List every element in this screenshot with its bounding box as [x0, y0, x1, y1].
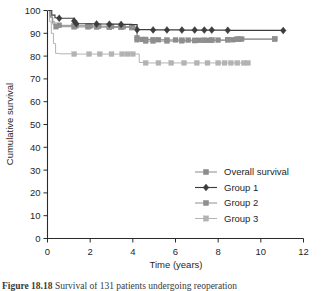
data-marker-diamond	[280, 27, 286, 34]
y-tick-label: 20	[30, 187, 41, 198]
x-tick-label: 12	[298, 246, 309, 257]
legend-label: Group 1	[224, 182, 258, 193]
figure-container: 0102030405060708090100 024681012 Time (y…	[0, 0, 330, 291]
data-marker-square	[156, 60, 161, 65]
y-tick-label: 0	[35, 233, 40, 244]
data-marker-square	[179, 38, 184, 43]
data-marker-diamond	[209, 27, 215, 34]
data-marker-square	[54, 24, 59, 29]
axis-spines	[48, 11, 304, 239]
data-marker-square	[72, 52, 77, 57]
data-marker-diamond	[225, 27, 231, 34]
data-marker-square	[225, 37, 230, 42]
data-marker-square	[192, 38, 197, 43]
y-tick-label: 30	[30, 165, 41, 176]
data-marker-diamond	[56, 15, 62, 22]
x-axis-ticks	[48, 239, 304, 243]
x-tick-label: 6	[173, 246, 178, 257]
data-marker-square	[272, 37, 277, 42]
y-tick-label: 40	[30, 142, 41, 153]
x-tick-label: 2	[88, 246, 93, 257]
data-marker-square	[186, 38, 191, 43]
y-tick-label: 60	[30, 96, 41, 107]
y-tick-label: 50	[30, 119, 41, 130]
data-marker-square	[173, 37, 178, 42]
data-marker-square	[228, 60, 233, 65]
data-marker-square	[135, 37, 140, 42]
legend-item-group-3[interactable]: Group 3	[195, 213, 258, 224]
data-marker-square	[129, 25, 134, 30]
figure-caption-number: Figure 18.18	[2, 282, 53, 291]
chart-legend: Overall survivalGroup 1Group 2Group 3	[195, 166, 289, 224]
figure-caption-text: Figure 18.18 Survival of 131 patients un…	[0, 282, 330, 291]
data-marker-square	[222, 60, 227, 65]
y-axis-tick-labels: 0102030405060708090100	[25, 5, 41, 244]
y-tick-label: 100	[25, 5, 41, 16]
data-marker-square	[182, 60, 187, 65]
y-tick-label: 90	[30, 28, 41, 39]
legend-label: Group 2	[224, 197, 258, 208]
data-marker-square	[202, 38, 207, 43]
data-marker-diamond	[150, 26, 156, 33]
data-marker-square	[151, 39, 156, 44]
legend-item-group-1[interactable]: Group 1	[195, 182, 258, 193]
data-marker-square	[109, 52, 114, 57]
figure-caption-body: Survival of 131 patients undergoing reop…	[55, 282, 237, 291]
x-tick-label: 4	[130, 246, 135, 257]
data-marker-square	[194, 60, 199, 65]
x-tick-label: 10	[256, 246, 267, 257]
series-group-1	[48, 11, 287, 35]
data-marker-square	[143, 39, 148, 44]
data-marker-square	[235, 60, 240, 65]
x-tick-label: 0	[45, 246, 50, 257]
data-marker-square	[203, 169, 208, 174]
legend-item-group-2[interactable]: Group 2	[195, 197, 258, 208]
survival-chart: 0102030405060708090100 024681012 Time (y…	[0, 0, 330, 275]
data-marker-square	[164, 39, 169, 44]
data-marker-square	[205, 60, 210, 65]
data-marker-square	[130, 52, 135, 57]
data-marker-square	[246, 60, 251, 65]
data-marker-square	[125, 52, 130, 57]
data-marker-square	[86, 24, 91, 29]
data-marker-square	[203, 216, 208, 221]
x-tick-label: 8	[216, 246, 221, 257]
data-marker-diamond	[179, 27, 185, 34]
data-marker-square	[143, 60, 148, 65]
data-marker-square	[169, 60, 174, 65]
x-axis-tick-labels: 024681012	[45, 246, 309, 257]
data-marker-square	[97, 52, 102, 57]
y-tick-label: 10	[30, 210, 41, 221]
data-marker-diamond	[203, 184, 209, 191]
series-step-line	[48, 11, 249, 63]
data-marker-diamond	[192, 27, 198, 34]
legend-label: Group 3	[224, 213, 258, 224]
data-marker-square	[209, 38, 214, 43]
data-marker-diamond	[201, 27, 207, 34]
legend-label: Overall survival	[224, 166, 289, 177]
data-marker-diamond	[164, 26, 170, 33]
series-step-line	[48, 11, 284, 31]
data-marker-square	[203, 200, 208, 205]
data-marker-square	[235, 37, 240, 42]
x-axis-title: Time (years)	[150, 259, 203, 270]
series-layer	[48, 11, 287, 66]
y-axis-title: Cumulative survival	[4, 83, 15, 165]
figure-caption: Figure 18.18 Survival of 131 patients un…	[0, 282, 330, 291]
y-tick-label: 70	[30, 73, 41, 84]
y-tick-label: 80	[30, 51, 41, 62]
series-step-line	[48, 11, 275, 41]
data-marker-square	[120, 52, 125, 57]
y-axis-ticks	[44, 11, 48, 239]
legend-item-overall-survival[interactable]: Overall survival	[195, 166, 289, 177]
data-marker-square	[87, 52, 92, 57]
data-marker-square	[216, 60, 221, 65]
